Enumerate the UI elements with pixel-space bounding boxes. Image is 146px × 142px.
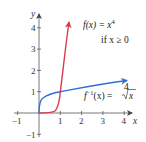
x-tick-label: −1: [12, 116, 22, 126]
x-tick-label: 4: [122, 116, 127, 126]
x-axis-label: x: [132, 116, 138, 126]
svg-text:f−1(x) =: f−1(x) =: [84, 89, 112, 102]
y-tick-label: 2: [31, 66, 36, 76]
x-tick-label: 1: [58, 116, 63, 126]
label-f-inverse-equation: f−1(x) = 4 x: [84, 82, 136, 102]
y-axis-label: y: [30, 9, 36, 19]
label-f-condition: if x ≥ 0: [101, 35, 129, 45]
svg-text:x: x: [128, 91, 134, 101]
x-tick-label: 3: [101, 116, 106, 126]
label-f-equation: f(x) = x4: [83, 18, 116, 31]
y-tick-label: 3: [31, 44, 36, 54]
curve-f-inverse: [39, 81, 127, 114]
y-tick-label: −1: [26, 130, 36, 140]
curve-f: [39, 22, 69, 113]
y-tick-label: 1: [31, 87, 36, 97]
y-tick-label: 4: [31, 23, 36, 33]
x-tick-label: 2: [79, 116, 84, 126]
function-graph: −1 1 2 3 4 x 1 2 3 4 −1 y f(x) = x4 if x…: [0, 0, 146, 142]
